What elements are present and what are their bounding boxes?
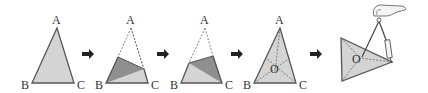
right-arrow-icon (157, 49, 169, 59)
step-5-compass: O (341, 5, 406, 81)
step-4-incenter: A B C O (243, 13, 307, 92)
incenter-label-o: O (270, 62, 279, 76)
vertex-label-a: A (126, 13, 135, 27)
vertex-label-b: B (243, 78, 251, 92)
step-2-fold-b: A B C (95, 13, 159, 92)
step-1-triangle: A B C (21, 13, 85, 92)
right-arrow-icon (310, 49, 322, 59)
step-3-fold-c: A B C (170, 13, 233, 92)
vertex-label-c: C (299, 78, 307, 92)
vertex-label-b: B (21, 78, 29, 92)
vertex-label-a: A (200, 13, 209, 27)
right-arrow-icon (82, 49, 94, 59)
right-arrow-icon (231, 49, 243, 59)
vertex-label-c: C (77, 78, 85, 92)
vertex-label-b: B (95, 78, 103, 92)
vertex-label-a: A (275, 13, 284, 27)
vertex-label-b: B (170, 78, 178, 92)
hand-icon (373, 5, 405, 16)
triangle-incenter-diagram: A B C A B C A B C (0, 0, 428, 93)
vertex-label-c: C (225, 78, 233, 92)
vertex-label-a: A (52, 13, 61, 27)
incenter-label-o: O (352, 52, 361, 66)
vertex-label-c: C (151, 78, 159, 92)
